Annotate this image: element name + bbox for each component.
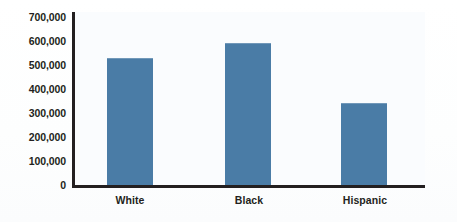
x-tick-label-white: White	[92, 194, 168, 206]
bar-black[interactable]	[225, 43, 271, 185]
x-tick-label-hispanic: Hispanic	[326, 194, 404, 206]
bar-chart: 700,000 600,000 500,000 400,000 300,000 …	[0, 0, 457, 222]
bar-hispanic[interactable]	[341, 103, 387, 185]
bar-white[interactable]	[107, 58, 153, 185]
bars-layer	[0, 0, 457, 222]
x-tick-label-black: Black	[211, 194, 287, 206]
